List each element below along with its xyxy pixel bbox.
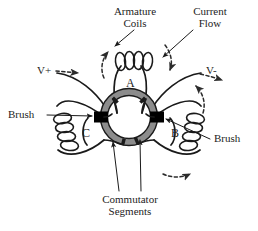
leader-armature-coils <box>115 30 134 46</box>
current-arrow-coil-b-right <box>196 86 204 113</box>
commutator-ring <box>101 89 158 146</box>
coil-b-windings <box>179 112 205 151</box>
coil-c-label: C <box>82 126 90 141</box>
leader-commutator-segments-left <box>113 142 119 191</box>
v-plus-lead <box>57 73 106 108</box>
terminal-positive-label: V+ <box>37 64 51 76</box>
leader-brush-left <box>47 115 92 116</box>
leader-current-flow <box>163 30 193 57</box>
terminal-negative-label: V- <box>206 64 217 76</box>
brush-left-label: Brush <box>8 109 34 121</box>
armature-coils-label: Armature Coils <box>98 6 172 29</box>
coil-b-label: B <box>171 126 179 141</box>
callout-leader-lines <box>47 30 210 191</box>
diagram-canvas: Armature Coils Current Flow V+ V- Brush … <box>0 0 258 231</box>
v-minus-lead <box>152 73 201 108</box>
segment-gap-bottom-left <box>123 139 125 146</box>
current-arrow-coil-b-bottom <box>163 174 190 177</box>
current-arrow-coil-a-left <box>102 52 108 78</box>
current-flow-arrows <box>56 45 222 177</box>
coil-c-windings <box>53 112 79 151</box>
current-flow-label: Current Flow <box>178 6 242 29</box>
current-arrow-coil-a-right <box>165 45 171 70</box>
brush-right-label: Brush <box>214 133 240 145</box>
commutator-outer-edge <box>101 89 158 146</box>
coil-a-label: A <box>126 76 135 91</box>
commutator-segments-label: Commutator Segments <box>80 194 180 217</box>
leader-commutator-segments-right <box>140 140 141 191</box>
